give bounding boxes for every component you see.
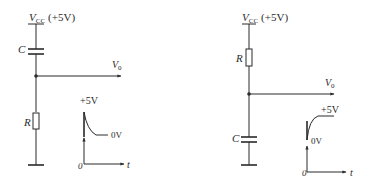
right-circuit: VCC(+5V) R V0 C +5V 0V 0 t	[232, 11, 353, 178]
right-waveform-low-label: 0V	[311, 136, 323, 146]
left-waveform: +5V 0V 0 t	[78, 95, 130, 171]
right-capacitor	[241, 137, 257, 142]
right-waveform-t-label: t	[350, 167, 353, 178]
left-waveform-high-label: +5V	[80, 95, 99, 106]
left-vcc-label: VCC(+5V)	[29, 11, 75, 25]
left-waveform-t-label: t	[127, 159, 130, 170]
left-resistor	[33, 113, 39, 129]
right-vcc-label: VCC(+5V)	[242, 11, 288, 25]
right-resistor	[246, 49, 252, 66]
left-waveform-origin-label: 0	[78, 161, 83, 171]
left-output-label: V0	[112, 59, 122, 72]
left-waveform-curve	[84, 112, 108, 135]
left-capacitor-label: C	[18, 43, 26, 55]
right-capacitor-label: C	[232, 132, 240, 144]
left-waveform-low-label: 0V	[111, 130, 123, 140]
left-circuit: VCC(+5V) C V0 R +5V 0V 0	[18, 11, 130, 171]
right-waveform-high-label: +5V	[321, 104, 340, 115]
rc-circuits-diagram: VCC(+5V) C V0 R +5V 0V 0	[0, 0, 367, 188]
right-output-label: V0	[325, 77, 335, 90]
right-waveform-origin-label: 0	[302, 168, 307, 178]
right-resistor-label: R	[235, 52, 243, 64]
right-waveform: +5V 0V 0 t	[302, 104, 353, 178]
left-capacitor	[28, 49, 44, 54]
left-resistor-label: R	[23, 116, 31, 128]
